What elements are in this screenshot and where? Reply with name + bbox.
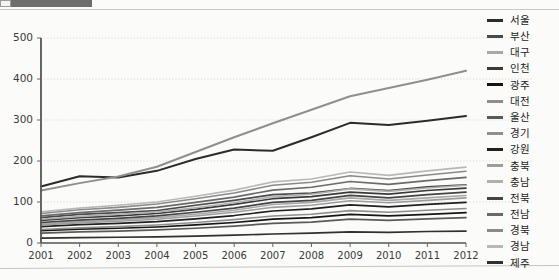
x-tick-label: 2003 [101,250,135,261]
y-tick-label: 0 [3,236,33,248]
x-tick-label: 2008 [294,250,328,261]
legend-label: 충북 [510,161,530,172]
series-line-0 [41,116,466,187]
legend-line-swatch-icon [487,51,503,54]
x-tick-label: 2012 [449,250,483,261]
legend-label: 충남 [510,177,530,188]
legend-line-swatch-icon [487,19,503,22]
legend-label: 서울 [510,15,530,26]
legend-label: 울산 [510,112,530,123]
legend-item-6[interactable]: 울산 [487,109,559,125]
scanned-page: 서울부산대구인천광주대전울산경기강원충북충남전북전남경북경남제주 0100200… [0,0,559,280]
x-tick-label: 2011 [410,250,444,261]
line-chart-plot [0,0,559,280]
legend-item-10[interactable]: 충남 [487,174,559,190]
x-tick-label: 2005 [179,250,213,261]
series-line-7 [41,71,466,191]
legend-item-0[interactable]: 서울 [487,12,559,28]
legend-label: 경기 [510,128,530,139]
legend-line-swatch-icon [487,35,503,38]
legend-line-swatch-icon [487,261,503,264]
legend-line-swatch-icon [487,245,503,248]
legend-line-swatch-icon [487,100,503,103]
legend-label: 광주 [510,80,530,91]
legend-label: 경남 [510,241,530,252]
legend-line-swatch-icon [487,83,503,86]
legend-label: 경북 [510,225,530,236]
x-tick-label: 2010 [372,250,406,261]
y-tick-label: 200 [3,154,33,166]
legend-line-swatch-icon [487,116,503,119]
x-tick-label: 2004 [140,250,174,261]
legend-item-4[interactable]: 광주 [487,77,559,93]
legend-line-swatch-icon [487,197,503,200]
x-tick-label: 2006 [217,250,251,261]
legend-item-14[interactable]: 경남 [487,239,559,255]
x-tick-label: 2007 [256,250,290,261]
legend-item-2[interactable]: 대구 [487,44,559,60]
legend-item-9[interactable]: 충북 [487,158,559,174]
y-tick-label: 100 [3,195,33,207]
legend-item-5[interactable]: 대전 [487,93,559,109]
x-tick-label: 2001 [24,250,58,261]
legend-label: 전남 [510,209,530,220]
legend-label: 부산 [510,31,530,42]
legend-label: 강원 [510,144,530,155]
legend-label: 전북 [510,193,530,204]
legend-item-8[interactable]: 강원 [487,142,559,158]
legend-line-swatch-icon [487,148,503,151]
x-tick-label: 2009 [333,250,367,261]
legend-item-12[interactable]: 전남 [487,206,559,222]
x-tick-label: 2002 [63,250,97,261]
y-tick-label: 500 [3,31,33,43]
legend-item-1[interactable]: 부산 [487,28,559,44]
legend-item-15[interactable]: 제주 [487,255,559,271]
legend-line-swatch-icon [487,180,503,183]
legend-label: 대구 [510,47,530,58]
legend-item-3[interactable]: 인천 [487,61,559,77]
legend-line-swatch-icon [487,229,503,232]
legend-line-swatch-icon [487,164,503,167]
y-tick-label: 400 [3,72,33,84]
legend-item-13[interactable]: 경북 [487,222,559,238]
legend-line-swatch-icon [487,132,503,135]
legend-item-7[interactable]: 경기 [487,125,559,141]
legend-label: 대전 [510,96,530,107]
legend-line-swatch-icon [487,213,503,216]
y-tick-label: 300 [3,113,33,125]
legend-item-11[interactable]: 전북 [487,190,559,206]
legend-label: 인천 [510,63,530,74]
chart-legend: 서울부산대구인천광주대전울산경기강원충북충남전북전남경북경남제주 [487,12,559,271]
legend-line-swatch-icon [487,67,503,70]
legend-label: 제주 [510,258,530,269]
